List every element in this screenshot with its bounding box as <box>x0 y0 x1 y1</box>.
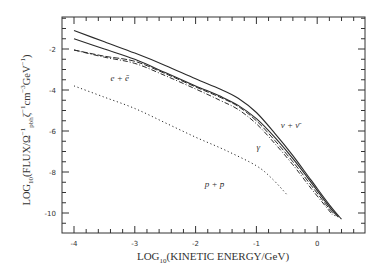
axis-ticks <box>62 17 365 233</box>
x-axis-label: LOG10(KINETIC ENERGY/GeV) <box>137 250 289 265</box>
y-axis-label: LOG10(FLUX/Ω−1pbhζ−1cm−3GeV−1) <box>19 54 35 205</box>
annotation-label: e + ē <box>110 73 130 83</box>
y-tick-label: -10 <box>45 210 56 218</box>
y-tick-label: -8 <box>49 169 56 177</box>
x-tick-label: -3 <box>131 240 138 248</box>
x-tick-label: -2 <box>192 240 199 248</box>
annotation-label: ν + ν̄ <box>281 120 303 130</box>
x-tick-label: -4 <box>71 240 79 248</box>
x-tick-label: 0 <box>315 240 319 248</box>
flux-chart: -4-3-2-10-2-4-6-8-10 e + ēν + ν̄γp + p̄ <box>0 0 384 275</box>
x-tick-label: -1 <box>253 240 260 248</box>
y-tick-label: -6 <box>49 128 57 136</box>
annotation-label: γ <box>256 142 260 152</box>
y-tick-label: -4 <box>49 87 57 95</box>
plot-frame <box>62 17 365 233</box>
curve-pp <box>74 86 287 195</box>
y-tick-label: -2 <box>49 46 56 54</box>
data-curves <box>74 31 342 220</box>
annotation-label: p + p̄ <box>204 179 225 189</box>
